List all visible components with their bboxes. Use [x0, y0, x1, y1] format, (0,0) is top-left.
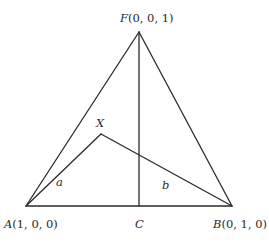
label-A: A(1, 0, 0) [3, 217, 58, 231]
label-a: a [56, 175, 63, 189]
ternary-triangle-diagram: F(0, 0, 1) A(1, 0, 0) B(0, 1, 0) C X a b [0, 0, 269, 245]
diagram-canvas: F(0, 0, 1) A(1, 0, 0) B(0, 1, 0) C X a b [0, 0, 269, 245]
line-AX [26, 134, 101, 206]
edge-AF [26, 32, 139, 206]
label-C: C [135, 217, 144, 231]
label-b: b [162, 178, 169, 192]
label-X: X [95, 116, 105, 130]
label-F: F(0, 0, 1) [119, 11, 174, 25]
label-B: B(0, 1, 0) [212, 217, 267, 231]
